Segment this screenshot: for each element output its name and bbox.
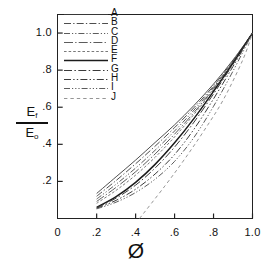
legend-swatch-d	[64, 41, 108, 42]
legend-swatch-f	[64, 59, 108, 60]
x-tick-label: .6	[160, 226, 190, 238]
fraction-bar	[16, 122, 48, 123]
x-tick-label: 1.0	[238, 226, 268, 238]
legend-swatch-j	[64, 97, 108, 98]
legend-item-h[interactable]: H	[64, 74, 126, 83]
legend-swatch-e	[64, 50, 108, 51]
legend-swatch-b	[64, 22, 108, 23]
y-axis-numerator-subscript: f	[35, 111, 37, 120]
legend-swatch-i	[64, 87, 108, 88]
legend-swatch-g	[64, 69, 108, 70]
y-axis-denominator: Eo	[12, 125, 52, 142]
x-tick-label: .2	[82, 226, 112, 238]
figure-root: .2.4.6.81.0 0.2.4.6.81.0 Ef Eo Ø ABCDEFG…	[0, 0, 272, 272]
y-axis-numerator: Ef	[12, 104, 52, 121]
x-tick-label: 0	[43, 226, 73, 238]
y-tick-label: 1.0	[24, 26, 52, 38]
y-axis-denominator-subscript: o	[34, 132, 38, 141]
x-axis-title: Ø	[0, 240, 272, 261]
x-tick-label: .8	[199, 226, 229, 238]
legend: ABCDEFGHIJ	[64, 9, 126, 102]
legend-swatch-h	[64, 78, 108, 79]
legend-label: J	[111, 92, 116, 102]
x-tick-label: .4	[121, 226, 151, 238]
y-tick-label: .2	[24, 174, 52, 186]
legend-item-i[interactable]: I	[64, 83, 126, 92]
legend-item-j[interactable]: J	[64, 93, 126, 102]
y-tick-label: .8	[24, 63, 52, 75]
y-axis-title: Ef Eo	[12, 104, 52, 142]
legend-swatch-c	[64, 32, 108, 33]
legend-swatch-a	[64, 13, 108, 14]
